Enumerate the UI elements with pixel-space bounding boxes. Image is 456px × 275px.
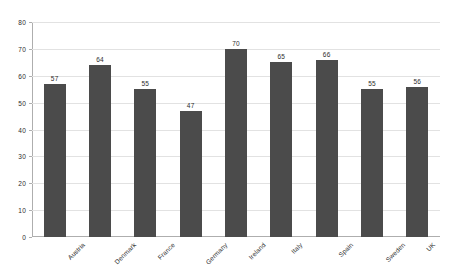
- bar[interactable]: [134, 89, 156, 237]
- bar-value-label: 70: [221, 40, 251, 47]
- bar[interactable]: [316, 60, 338, 237]
- y-axis-tickmark: [29, 237, 32, 238]
- y-axis-tick-label: 10: [4, 207, 26, 214]
- bar[interactable]: [406, 87, 428, 238]
- y-axis-tick-label: 30: [4, 153, 26, 160]
- x-axis-category-label: Sweden: [384, 241, 406, 263]
- bar[interactable]: [225, 49, 247, 237]
- x-axis-category-label: Spain: [337, 241, 354, 258]
- x-axis-category-label: Italy: [290, 241, 304, 255]
- y-axis-tickmark: [29, 49, 32, 50]
- y-axis-tick-label: 20: [4, 180, 26, 187]
- bar[interactable]: [89, 65, 111, 237]
- y-axis-tickmark: [29, 156, 32, 157]
- bar[interactable]: [180, 111, 202, 237]
- bar-value-label: 64: [85, 56, 115, 63]
- bar-value-label: 47: [176, 102, 206, 109]
- y-axis-tick-label: 60: [4, 72, 26, 79]
- y-axis-tick-label: 50: [4, 99, 26, 106]
- bar-value-label: 55: [357, 80, 387, 87]
- x-axis-category-label: Ireland: [247, 241, 267, 261]
- gridline: [32, 22, 440, 23]
- y-axis-tickmark: [29, 183, 32, 184]
- x-axis-category-label: UK: [425, 241, 437, 253]
- y-axis-tick-label: 80: [4, 19, 26, 26]
- y-axis-tick-label: 70: [4, 45, 26, 52]
- y-axis-tickmark: [29, 103, 32, 104]
- x-axis-category-label: Austria: [66, 241, 86, 261]
- x-axis-category-label: France: [157, 241, 177, 261]
- y-axis-tickmark: [29, 22, 32, 23]
- bar[interactable]: [361, 89, 383, 237]
- bar-value-label: 65: [266, 53, 296, 60]
- y-axis-tick-label: 0: [4, 234, 26, 241]
- bar[interactable]: [270, 62, 292, 237]
- x-axis-category-label: Denmark: [113, 241, 137, 265]
- y-axis-tickmark: [29, 210, 32, 211]
- x-axis-category-label: Germany: [204, 241, 229, 266]
- bar-value-label: 55: [130, 80, 160, 87]
- y-axis-tickmark: [29, 76, 32, 77]
- bar[interactable]: [44, 84, 66, 237]
- bar-chart: 01020304050607080 576455477065665556 Aus…: [0, 0, 456, 275]
- bar-value-label: 56: [402, 78, 432, 85]
- bar-value-label: 57: [40, 75, 70, 82]
- bar-value-label: 66: [312, 51, 342, 58]
- y-axis-tick-label: 40: [4, 126, 26, 133]
- y-axis-tickmark: [29, 130, 32, 131]
